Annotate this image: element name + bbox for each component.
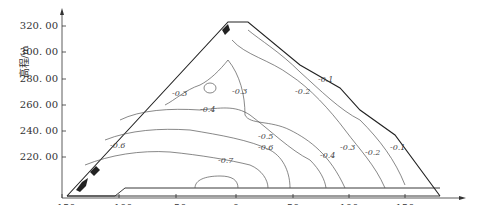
x-tick-label: −50 [165, 202, 186, 205]
y-tick-label: 260. 00 [20, 99, 58, 110]
contour-label: -0.1 [318, 75, 333, 84]
y-tick-label: 320. 00 [20, 20, 58, 31]
contour-lines [85, 30, 405, 188]
contour-label: -0.7 [218, 156, 234, 165]
x-tick-label: 0 [233, 202, 239, 205]
dam-outline [67, 22, 440, 196]
y-tick-label: 240. 00 [20, 125, 58, 136]
contour-chart: 320. 00 300. 00 280. 00 260. 00 240. 00 … [0, 0, 479, 205]
contour-label: -0.2 [295, 87, 310, 96]
contour-label: -0.1 [390, 143, 405, 152]
contour-label: -0.2 [365, 148, 380, 157]
contour-label: -0.3 [340, 143, 355, 152]
contour-label: -0.4 [200, 105, 215, 114]
contour-0.2 [232, 40, 385, 188]
contour-label: -0.3 [172, 89, 187, 98]
x-axis [62, 194, 466, 200]
y-tick-labels: 320. 00 300. 00 280. 00 260. 00 240. 00 … [20, 20, 58, 162]
contour-0.6 [85, 152, 268, 188]
contour-label: -0.6 [110, 141, 125, 150]
x-tick-label: −100 [105, 202, 132, 205]
x-tick-label: 100 [339, 202, 358, 205]
x-tick-label: −150 [48, 202, 75, 205]
contour-label: -0.6 [258, 143, 273, 152]
y-axis-label: 高程/m [18, 45, 30, 78]
y-tick-label: 220. 00 [20, 151, 58, 162]
x-tick-label: 150 [395, 202, 414, 205]
contour-label: -0.5 [258, 132, 273, 141]
contour-0.7 [195, 176, 238, 188]
contour-label: -0.4 [320, 151, 335, 160]
y-axis [60, 8, 66, 198]
x-tick-label: 50 [287, 202, 300, 205]
x-tick-labels: −150 −100 −50 0 50 100 150 [48, 202, 414, 205]
contour-label: -0.3 [232, 87, 247, 96]
